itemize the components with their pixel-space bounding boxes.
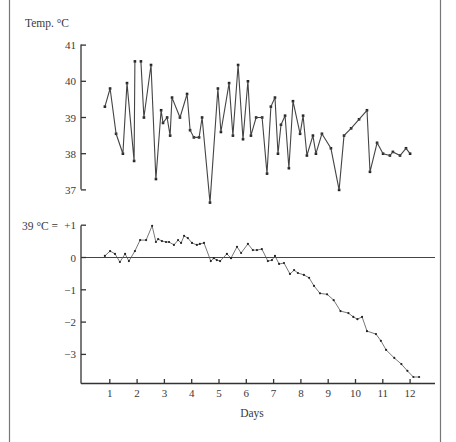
data-point [247,243,249,245]
y-tick-label: 38 [65,148,77,160]
data-point [289,273,291,275]
data-point [183,235,185,237]
data-point [240,252,242,254]
top-y-ticks: 3738394041 [65,39,86,196]
y-tick-label: 39 [65,112,77,124]
data-point [283,262,285,264]
data-point [326,293,328,295]
data-point [226,253,228,255]
temperature-chart-figure: Temp. °C 3738394041 39 °C = +10−1−2−3 12… [0,0,456,442]
data-point [236,246,238,248]
x-tick-label: 1 [107,387,113,399]
x-tick-label: 9 [325,387,331,399]
data-point [385,349,387,351]
x-tick-label: 12 [405,387,416,399]
data-point [393,357,395,359]
data-point [151,225,153,227]
data-point [352,316,354,318]
data-point [274,255,276,257]
data-point [375,333,377,335]
y-tick-label: −3 [64,348,76,360]
data-point [187,237,189,239]
data-point [412,376,414,378]
data-point [191,242,193,244]
x-tick-label: 5 [216,387,222,399]
bottom-y-ticks: +10−1−2−3 [64,219,86,360]
data-point [216,259,218,261]
data-point [165,241,167,243]
data-point [261,248,263,250]
x-tick-label: 11 [378,387,389,399]
data-point [361,316,363,318]
data-point [297,272,299,274]
bottom-y-axis-label: 39 °C = [22,220,58,232]
data-point [252,249,254,251]
data-point [134,250,136,252]
data-point [161,240,163,242]
data-point [180,242,182,244]
x-tick-label: 6 [244,387,250,399]
temperature-line [105,61,135,160]
x-ticks: 123456789101112 [107,379,416,399]
data-point [213,257,215,259]
data-point [104,255,106,257]
data-point [256,249,258,251]
x-tick-label: 3 [162,387,168,399]
data-point [333,299,335,301]
y-tick-label: 40 [65,75,77,87]
data-point [155,241,157,243]
data-point [210,260,212,262]
data-point [319,292,321,294]
x-tick-label: 8 [298,387,304,399]
data-point [119,261,121,263]
data-point [356,318,358,320]
data-point [406,370,408,372]
data-point [199,243,201,245]
data-point [230,257,232,259]
data-point [267,260,269,262]
cumulative-deviation-chart: 39 °C = +10−1−2−3 123456789101112 Days [22,219,435,420]
data-point [380,340,382,342]
deviation-series [104,225,420,378]
x-tick-label: 7 [271,387,277,399]
x-tick-label: 2 [134,387,140,399]
data-point [400,363,402,365]
data-point [139,239,141,241]
data-point [168,241,170,243]
data-point [173,244,175,246]
y-tick-label: +1 [64,219,76,231]
y-tick-label: 37 [65,184,77,196]
y-tick-label: 41 [65,39,76,51]
data-point [114,253,116,255]
data-point [177,239,179,241]
top-y-axis-label: Temp. °C [25,17,69,30]
data-point [128,260,130,262]
data-point [109,250,111,252]
data-point [313,285,315,287]
data-point [219,260,221,262]
data-point [418,376,420,378]
data-point [124,253,126,255]
data-point [203,242,205,244]
data-point [339,310,341,312]
x-axis-label: Days [240,407,264,420]
data-point [347,312,349,314]
data-point [278,263,280,265]
data-point [196,244,198,246]
data-point [293,269,295,271]
data-point [366,330,368,332]
data-point [303,274,305,276]
x-tick-label: 10 [350,387,362,399]
data-point [145,239,147,241]
temperature-line [141,61,410,202]
x-tick-label: 4 [189,387,195,399]
data-point [157,238,159,240]
temperature-chart: Temp. °C 3738394041 [25,17,411,204]
y-tick-label: −2 [64,316,76,328]
data-point [271,259,273,261]
y-tick-label: −1 [64,284,76,296]
data-point [308,277,310,279]
temperature-series [104,60,412,204]
y-tick-label: 0 [71,252,77,264]
